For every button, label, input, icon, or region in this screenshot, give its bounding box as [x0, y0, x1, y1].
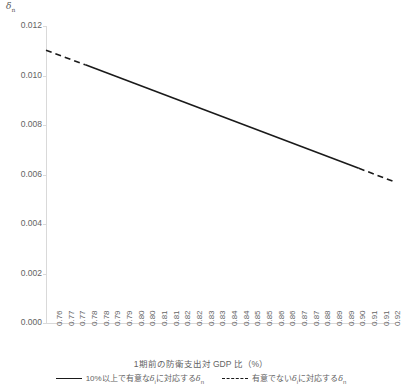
x-tick-label: 0.92 [394, 310, 402, 326]
chart-legend: 10%以上で有意なδiに対応するδn 有意でないδiに対応するδn [0, 372, 402, 384]
series-line-solid [85, 65, 358, 168]
x-tick-label: 0.87 [313, 310, 321, 326]
legend-label-subscript2-2: n [343, 379, 346, 384]
x-tick-label: 0.77 [79, 310, 87, 326]
x-tick-label: 0.86 [278, 310, 286, 326]
legend-label-suffix-2: に対応する [298, 374, 338, 383]
legend-label-suffix: に対応する [156, 374, 196, 383]
legend-swatch-solid-icon [56, 378, 82, 379]
legend-label-subscript2: n [201, 379, 204, 384]
series-line-dashed [46, 50, 85, 65]
x-tick-label: 0.80 [138, 310, 146, 326]
plot-area [0, 0, 402, 384]
x-tick-label: 0.90 [359, 310, 367, 326]
x-tick-label: 0.81 [161, 310, 169, 326]
x-tick-label: 0.76 [56, 310, 64, 326]
legend-label-prefix: 10%以上で有意な [86, 374, 150, 383]
x-tick-label: 0.89 [348, 310, 356, 326]
x-tick-label: 0.82 [196, 310, 204, 326]
legend-label-not-significant: 有意でないδiに対応するδn [252, 372, 346, 384]
legend-swatch-dashed-icon [222, 378, 248, 379]
x-tick-label: 0.82 [184, 310, 192, 326]
x-tick-label: 0.86 [289, 310, 297, 326]
x-tick-label: 0.80 [149, 310, 157, 326]
series-line-dashed [359, 168, 396, 182]
x-tick-label: 0.79 [126, 310, 134, 326]
x-tick-label: 0.83 [219, 310, 227, 326]
x-tick-label: 0.78 [103, 310, 111, 326]
legend-entry-significant: 10%以上で有意なδiに対応するδn [56, 372, 204, 384]
x-tick-label: 0.77 [68, 310, 76, 326]
legend-label-significant: 10%以上で有意なδiに対応するδn [86, 372, 204, 384]
x-tick-label: 0.85 [266, 310, 274, 326]
x-axis-title: 1期前の防衛支出対 GDP 比（%） [0, 357, 402, 369]
chart-container: δn 0.0000.0020.0040.0060.0080.0100.012 0… [0, 0, 402, 384]
x-tick-label: 0.91 [371, 310, 379, 326]
x-tick-label: 0.84 [243, 310, 251, 326]
x-tick-label: 0.85 [254, 310, 262, 326]
x-tick-label: 0.84 [231, 310, 239, 326]
x-tick-label: 0.83 [208, 310, 216, 326]
legend-entry-not-significant: 有意でないδiに対応するδn [222, 372, 346, 384]
x-tick-label: 0.88 [324, 310, 332, 326]
legend-label-prefix-2: 有意でない [252, 374, 292, 383]
x-tick-label: 0.79 [114, 310, 122, 326]
x-tick-label: 0.81 [173, 310, 181, 326]
x-tick-label: 0.78 [91, 310, 99, 326]
x-tick-label: 0.89 [336, 310, 344, 326]
x-tick-label: 0.87 [301, 310, 309, 326]
x-tick-label: 0.91 [383, 310, 391, 326]
